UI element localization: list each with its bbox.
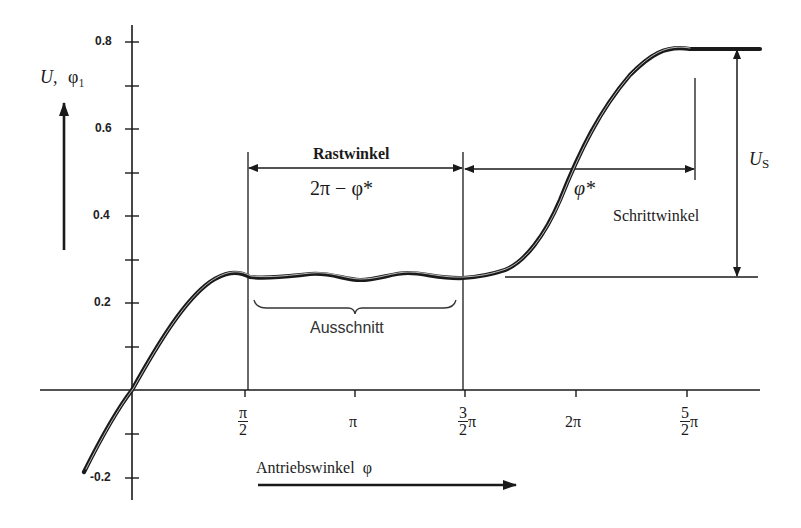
x-tick-pi-half: π 2 (238, 405, 248, 438)
y-tick-0.8: 0.8 (95, 35, 112, 47)
cam-diagram (0, 0, 801, 528)
y-axis-label: U, φ₁ (40, 68, 85, 86)
dimension-arrows (249, 50, 737, 276)
x-ticks (245, 390, 687, 397)
x-tick-two-pi: 2π (565, 414, 581, 430)
y-axis-label-phi: φ₁ (68, 67, 85, 87)
dwell-angle-formula: 2π − φ* (310, 178, 373, 198)
stroke-label: US (749, 150, 769, 170)
axes (40, 25, 760, 500)
excerpt-brace (254, 300, 456, 314)
y-tick-0.2: 0.2 (94, 296, 111, 308)
dwell-angle-title: Rastwinkel (313, 146, 389, 162)
y-tick-0.6: 0.6 (95, 122, 112, 134)
step-angle-formula: φ* (574, 178, 595, 198)
step-angle-title: Schrittwinkel (613, 208, 699, 224)
x-tick-pi: π (349, 414, 357, 430)
y-tick-neg-0.2: -0.2 (90, 471, 111, 483)
x-axis-label: Antriebswinkel φ (256, 460, 372, 476)
x-tick-five-half-pi: 5 2 π (680, 405, 698, 438)
y-tick-0.4: 0.4 (93, 209, 110, 221)
excerpt-label: Ausschnitt (310, 320, 384, 336)
x-tick-three-half-pi: 3 2 π (458, 405, 476, 438)
y-axis-label-u: U, (40, 67, 58, 87)
transfer-curve (84, 47, 760, 472)
